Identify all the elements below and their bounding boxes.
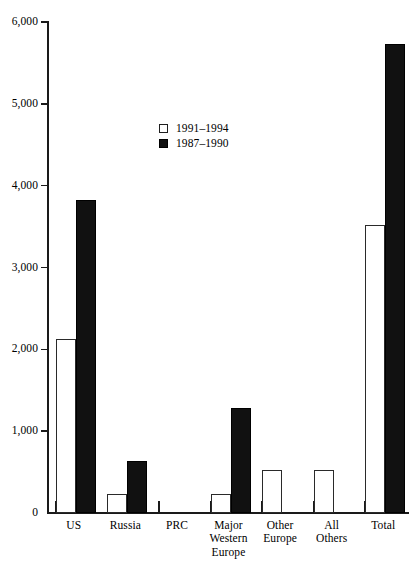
y-axis-tick-label: 6,000 [0, 16, 38, 28]
legend-item-0: 1991–1994 [159, 121, 229, 135]
y-axis-tick [41, 21, 48, 23]
bar-major-western-europe-1987–1990 [231, 408, 251, 513]
x-axis-tick [158, 501, 160, 512]
y-axis-tick-label: 0 [0, 507, 38, 519]
x-axis-category-label: Total [349, 519, 417, 532]
bar-other-europe-1991–1994 [262, 470, 282, 513]
bar-us-1987–1990 [76, 200, 96, 513]
y-axis-tick [41, 267, 48, 269]
bar-total-1987–1990 [385, 44, 405, 513]
x-axis-category-label-line: Total [349, 519, 417, 532]
bar-us-1991–1994 [56, 339, 76, 513]
y-axis-tick-label: 3,000 [0, 262, 38, 274]
legend-label-1: 1987–1990 [176, 137, 229, 149]
x-axis-category-label-line: Others [298, 532, 366, 545]
bar-major-western-europe-1991–1994 [211, 494, 231, 513]
y-axis-tick [41, 103, 48, 105]
y-axis-tick-label: 1,000 [0, 425, 38, 437]
legend-item-1: 1987–1990 [159, 136, 229, 150]
legend-label-0: 1991–1994 [176, 122, 229, 134]
bar-all-others-1991–1994 [314, 470, 334, 513]
black-square-icon [159, 139, 168, 148]
y-axis-tick [41, 185, 48, 187]
x-axis-category-label-line: Europe [195, 546, 263, 559]
bar-total-1991–1994 [365, 225, 385, 513]
y-axis-tick-label: 2,000 [0, 343, 38, 355]
y-axis-tick-label: 5,000 [0, 98, 38, 110]
bar-russia-1987–1990 [127, 461, 147, 513]
bar-chart: 01,0002,0003,0004,0005,0006,000 USRussia… [0, 0, 417, 578]
y-axis-tick-label: 4,000 [0, 180, 38, 192]
y-axis-tick [41, 430, 48, 432]
white-square-icon [159, 124, 168, 133]
chart-legend: 1991–1994 1987–1990 [159, 121, 229, 151]
bar-russia-1991–1994 [107, 494, 127, 513]
y-axis-tick [41, 349, 48, 351]
